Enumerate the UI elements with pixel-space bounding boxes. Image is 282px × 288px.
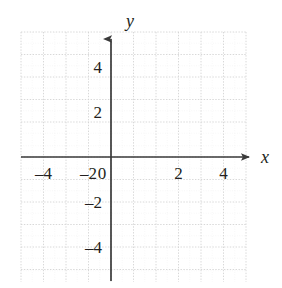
y-tick-label-2: 2 xyxy=(94,103,103,122)
coordinate-plane-svg: y x –4 –2 0 2 4 4 2 –2 –4 xyxy=(0,0,282,288)
y-tick-label--2: –2 xyxy=(84,193,102,212)
x-tick-label-0: 0 xyxy=(98,164,107,183)
x-tick-label-4: 4 xyxy=(219,164,228,183)
coordinate-plane-figure: y x –4 –2 0 2 4 4 2 –2 –4 xyxy=(0,0,282,288)
x-tick-label--2: –2 xyxy=(79,164,97,183)
x-axis-label: x xyxy=(260,147,269,167)
x-tick-label--4: –4 xyxy=(34,164,53,183)
y-tick-label-4: 4 xyxy=(94,58,103,77)
y-tick-label--4: –4 xyxy=(84,238,103,257)
x-tick-label-2: 2 xyxy=(174,164,183,183)
y-axis-label: y xyxy=(124,11,134,31)
